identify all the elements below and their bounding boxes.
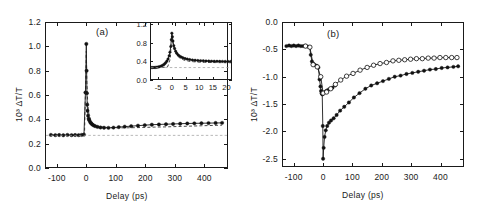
x-tick-label: 200 <box>374 172 389 182</box>
axis-tick <box>323 22 324 26</box>
data-point-filled <box>393 75 396 78</box>
data-point-filled <box>199 59 202 62</box>
data-point-filled <box>335 113 338 116</box>
data-point-open <box>365 65 369 69</box>
y-tick-label: 0.0 <box>256 17 278 27</box>
axis-tick <box>199 22 200 25</box>
axis-tick <box>227 77 228 80</box>
data-point-filled <box>338 109 341 112</box>
y-tick-label: -1.5 <box>256 99 278 109</box>
data-point-filled <box>343 105 346 108</box>
data-point-filled <box>221 60 224 63</box>
data-point-open <box>378 61 382 65</box>
axis-tick <box>229 24 232 25</box>
data-point-open <box>339 78 343 82</box>
axis-tick <box>460 22 464 23</box>
data-point-open <box>319 75 323 79</box>
axis-tick <box>158 77 159 80</box>
axis-tick <box>282 131 286 132</box>
y-tick-label: -2.0 <box>256 126 278 136</box>
data-point-filled <box>324 129 327 132</box>
axis-tick <box>150 61 153 62</box>
data-point-filled <box>411 71 414 74</box>
axis-tick <box>282 159 286 160</box>
axis-tick <box>213 22 214 25</box>
data-point-filled <box>358 91 361 94</box>
x-tick-label: -5 <box>155 83 162 92</box>
data-point-open <box>371 63 375 67</box>
axis-tick <box>352 22 353 26</box>
data-point-filled <box>434 67 437 70</box>
data-point-filled <box>422 69 425 72</box>
data-point-open <box>351 71 355 75</box>
axis-tick <box>323 163 324 167</box>
data-point-open <box>358 68 362 72</box>
data-point-filled <box>399 74 402 77</box>
data-point-open <box>329 87 333 91</box>
axis-tick <box>199 77 200 80</box>
data-point-open <box>408 57 412 61</box>
data-point-filled <box>446 66 449 69</box>
data-point-filled <box>167 58 170 61</box>
data-point-filled <box>452 65 455 68</box>
y-tick-label: 0.0 <box>130 76 147 85</box>
y-tick-label: -1.0 <box>256 72 278 82</box>
y-tick-label: 0.4 <box>130 57 147 66</box>
data-point-open <box>420 56 424 60</box>
axis-tick <box>229 80 232 81</box>
data-point-filled <box>332 117 335 120</box>
x-tick-label: 0 <box>170 83 174 92</box>
data-point-filled <box>456 65 459 68</box>
axis-tick <box>460 131 464 132</box>
panel-a-inset-canvas <box>0 0 243 213</box>
data-point-open <box>426 56 430 60</box>
axis-tick <box>229 43 232 44</box>
data-point-open <box>384 60 388 64</box>
data-point-filled <box>202 60 205 63</box>
axis-tick <box>411 22 412 26</box>
data-point-filled <box>191 59 194 62</box>
axis-tick <box>172 22 173 25</box>
panel-b-canvas <box>243 0 486 213</box>
x-tick-label: 0 <box>321 172 326 182</box>
axis-tick <box>282 77 286 78</box>
data-point-filled <box>370 84 373 87</box>
axis-tick <box>150 80 153 81</box>
axis-tick <box>460 49 464 50</box>
data-point-filled <box>208 60 211 63</box>
data-point-open <box>311 62 315 66</box>
axis-tick <box>294 163 295 167</box>
panel-a: (a) 10³ ΔT/T Delay (ps) -100010020030040… <box>0 0 243 213</box>
data-point-open <box>303 44 307 48</box>
axis-tick <box>294 22 295 26</box>
data-point-open <box>324 90 328 94</box>
axis-tick <box>172 77 173 80</box>
data-point-filled <box>417 70 420 73</box>
data-point-open <box>391 59 395 63</box>
axis-tick <box>411 163 412 167</box>
data-point-filled <box>210 60 213 63</box>
data-point-filled <box>375 82 378 85</box>
x-tick-label: 20 <box>222 83 230 92</box>
figure-root: (a) 10³ ΔT/T Delay (ps) -100010020030040… <box>0 0 486 213</box>
data-point-filled <box>364 87 367 90</box>
data-point-filled <box>323 135 326 138</box>
y-tick-label: -2.5 <box>256 154 278 164</box>
data-point-open <box>344 74 348 78</box>
data-point-filled <box>186 58 189 61</box>
data-point-filled <box>213 60 216 63</box>
axis-tick <box>460 77 464 78</box>
data-point-filled <box>321 124 324 127</box>
axis-tick <box>150 24 153 25</box>
axis-tick <box>282 22 286 23</box>
panel-b: (b) 10³ ΔT/T Delay (ps) -100010020030040… <box>243 0 486 213</box>
data-point-filled <box>194 59 197 62</box>
data-point-filled <box>321 157 324 160</box>
axis-tick <box>186 77 187 80</box>
data-point-filled <box>387 77 390 80</box>
data-point-filled <box>440 66 443 69</box>
axis-tick <box>150 43 153 44</box>
data-point-open <box>449 55 453 59</box>
axis-tick <box>227 22 228 25</box>
data-point-filled <box>172 40 175 43</box>
